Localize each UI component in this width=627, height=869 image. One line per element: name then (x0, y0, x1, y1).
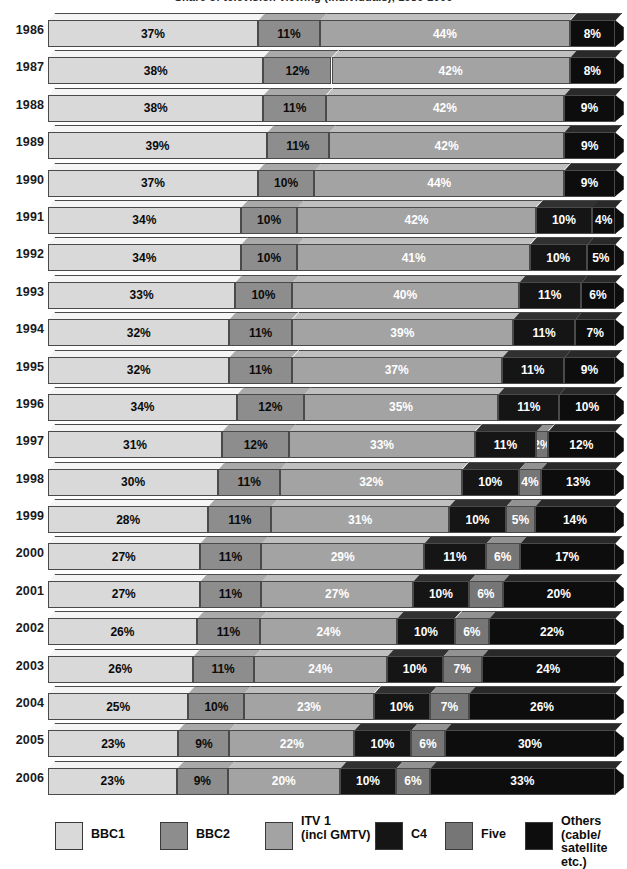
bar-segment[interactable]: 27% (48, 581, 200, 608)
bar-segment[interactable]: 6% (411, 730, 445, 757)
bar-segment[interactable]: 9% (564, 95, 615, 122)
bar-segment[interactable]: 31% (271, 506, 449, 533)
bar-segment[interactable]: 20% (503, 581, 615, 608)
bar-segment[interactable]: 9% (178, 730, 229, 757)
bar-segment[interactable]: 24% (260, 618, 397, 645)
bar-segment[interactable]: 42% (329, 132, 565, 159)
bar-segment[interactable]: 39% (292, 319, 513, 346)
bar-segment[interactable]: 11% (513, 319, 575, 346)
bar-segment[interactable]: 13% (541, 469, 615, 496)
bar-segment[interactable]: 10% (449, 506, 506, 533)
bar-segment[interactable]: 12% (222, 431, 289, 458)
bar-segment[interactable]: 12% (237, 394, 304, 421)
bar-segment[interactable]: 11% (218, 469, 280, 496)
legend-item[interactable]: Others (cable/ satellite etc.) (525, 812, 627, 869)
bar-segment[interactable]: 30% (445, 730, 615, 757)
bar-segment[interactable]: 32% (280, 469, 461, 496)
bar-segment[interactable]: 40% (292, 282, 519, 309)
bar-segment[interactable]: 6% (396, 768, 430, 795)
bar-segment[interactable]: 27% (48, 543, 200, 570)
bar-segment[interactable]: 11% (267, 132, 329, 159)
bar-segment[interactable]: 6% (581, 282, 615, 309)
bar-segment[interactable]: 34% (48, 207, 241, 234)
bar-segment[interactable]: 24% (254, 656, 387, 683)
bar-segment[interactable]: 37% (48, 170, 258, 197)
bar-segment[interactable]: 10% (258, 170, 315, 197)
bar-segment[interactable]: 10% (340, 768, 396, 795)
bar-segment[interactable]: 22% (229, 730, 354, 757)
bar-segment[interactable]: 31% (48, 431, 222, 458)
bar-segment[interactable]: 11% (200, 581, 262, 608)
bar-segment[interactable]: 41% (297, 244, 529, 271)
bar-segment[interactable]: 5% (506, 506, 535, 533)
bar-segment[interactable]: 10% (241, 207, 298, 234)
bar-segment[interactable]: 7% (430, 693, 469, 720)
bar-segment[interactable]: 32% (48, 319, 229, 346)
bar-segment[interactable]: 26% (469, 693, 615, 720)
bar-segment[interactable]: 25% (48, 693, 188, 720)
bar-segment[interactable]: 33% (48, 282, 235, 309)
bar-segment[interactable]: 11% (200, 543, 262, 570)
bar-segment[interactable]: 24% (482, 656, 615, 683)
bar-segment[interactable]: 8% (570, 20, 615, 47)
bar-segment[interactable]: 33% (289, 431, 474, 458)
bar-segment[interactable]: 6% (469, 581, 503, 608)
bar-segment[interactable]: 10% (413, 581, 469, 608)
bar-segment[interactable]: 17% (520, 543, 615, 570)
bar-segment[interactable]: 12% (263, 57, 331, 84)
bar-segment[interactable]: 26% (48, 618, 197, 645)
bar-segment[interactable]: 35% (304, 394, 499, 421)
legend-item[interactable]: BBC2 (160, 812, 230, 850)
bar-segment[interactable]: 11% (229, 319, 291, 346)
bar-segment[interactable]: 11% (424, 543, 486, 570)
bar-segment[interactable]: 9% (564, 357, 615, 384)
bar-segment[interactable]: 42% (326, 95, 564, 122)
bar-segment[interactable]: 10% (387, 656, 443, 683)
bar-segment[interactable]: 7% (575, 319, 615, 346)
bar-segment[interactable]: 37% (48, 20, 258, 47)
bar-segment[interactable]: 6% (486, 543, 520, 570)
bar-segment[interactable]: 32% (48, 357, 229, 384)
bar-segment[interactable]: 23% (244, 693, 373, 720)
bar-segment[interactable]: 11% (229, 357, 291, 384)
bar-segment[interactable]: 6% (455, 618, 489, 645)
bar-segment[interactable]: 39% (48, 132, 267, 159)
bar-segment[interactable]: 26% (48, 656, 193, 683)
bar-segment[interactable]: 10% (374, 693, 430, 720)
bar-segment[interactable]: 11% (519, 282, 581, 309)
bar-segment[interactable]: 27% (261, 581, 413, 608)
bar-segment[interactable]: 10% (397, 618, 454, 645)
bar-segment[interactable]: 30% (48, 469, 218, 496)
bar-segment[interactable]: 10% (354, 730, 411, 757)
bar-segment[interactable]: 22% (489, 618, 615, 645)
bar-segment[interactable]: 11% (197, 618, 260, 645)
legend-item[interactable]: ITV 1 (incl GMTV) (265, 812, 370, 850)
bar-segment[interactable]: 34% (48, 394, 237, 421)
bar-segment[interactable]: 4% (519, 469, 542, 496)
legend-item[interactable]: Five (445, 812, 506, 850)
bar-segment[interactable]: 29% (261, 543, 424, 570)
bar-segment[interactable]: 11% (498, 394, 559, 421)
bar-segment[interactable]: 28% (48, 506, 208, 533)
bar-segment[interactable]: 10% (536, 207, 593, 234)
bar-segment[interactable]: 11% (193, 656, 254, 683)
bar-segment[interactable]: 11% (258, 20, 320, 47)
bar-segment[interactable]: 37% (292, 357, 502, 384)
bar-segment[interactable]: 2% (536, 431, 547, 458)
legend-item[interactable]: BBC1 (55, 812, 125, 850)
bar-segment[interactable]: 9% (564, 170, 615, 197)
bar-segment[interactable]: 5% (587, 244, 615, 271)
bar-segment[interactable]: 14% (535, 506, 615, 533)
bar-segment[interactable]: 12% (548, 431, 615, 458)
bar-segment[interactable]: 4% (592, 207, 615, 234)
bar-segment[interactable]: 7% (443, 656, 482, 683)
bar-segment[interactable]: 38% (48, 57, 263, 84)
bar-segment[interactable]: 11% (263, 95, 325, 122)
bar-segment[interactable]: 11% (475, 431, 537, 458)
bar-segment[interactable]: 33% (430, 768, 615, 795)
bar-segment[interactable]: 23% (48, 730, 178, 757)
bar-segment[interactable]: 10% (462, 469, 519, 496)
bar-segment[interactable]: 8% (570, 57, 615, 84)
bar-segment[interactable]: 38% (48, 95, 263, 122)
bar-segment[interactable]: 42% (297, 207, 535, 234)
